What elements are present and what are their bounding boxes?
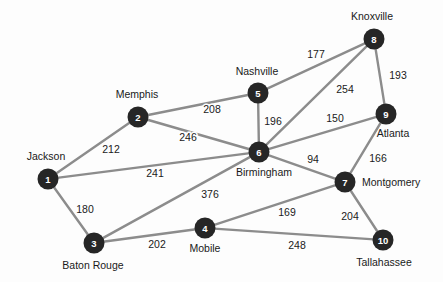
city-label-birmingham: Birmingham	[236, 166, 292, 178]
city-label-nashville: Nashville	[236, 65, 279, 77]
edge-weight-label: 94	[307, 153, 319, 165]
edge-weight-label: 208	[203, 103, 221, 115]
graph-edge	[147, 95, 249, 115]
graph-edge	[375, 48, 384, 105]
city-label-knoxville: Knoxville	[351, 10, 393, 22]
edge-weight-label: 150	[326, 112, 344, 124]
city-label-tallahassee: Tallahassee	[356, 256, 412, 268]
graph-node-9[interactable]: 9	[376, 104, 397, 125]
edge-weight-label: 254	[336, 83, 354, 95]
city-label-atlanta: Atlanta	[377, 127, 410, 139]
graph-node-3[interactable]: 3	[84, 233, 105, 254]
edge-weight-label: 177	[307, 48, 325, 60]
city-label-jackson: Jackson	[27, 150, 66, 162]
node-number-label: 9	[383, 109, 388, 120]
graph-edge	[258, 102, 259, 143]
city-label-memphis: Memphis	[116, 88, 159, 100]
graph-node-6[interactable]: 6	[249, 142, 270, 163]
city-label-baton-rouge: Baton Rouge	[62, 259, 123, 271]
graph-edge	[147, 120, 251, 150]
graph-node-2[interactable]: 2	[128, 107, 149, 128]
node-number-label: 4	[202, 223, 208, 234]
graph-node-1[interactable]: 1	[38, 169, 59, 190]
graph-node-5[interactable]: 5	[248, 83, 269, 104]
edge-weight-label: 169	[278, 206, 296, 218]
graph-edge	[268, 117, 378, 150]
edge-weight-label: 193	[389, 69, 407, 81]
edge-weight-label: 246	[179, 131, 197, 143]
graph-node-4[interactable]: 4	[195, 218, 216, 239]
node-number-label: 10	[378, 235, 389, 246]
edge-weight-label: 376	[201, 188, 219, 200]
node-number-label: 1	[45, 174, 51, 185]
edge-weight-label: 180	[76, 203, 94, 215]
edge-weight-label: 202	[148, 238, 166, 250]
node-number-label: 8	[371, 34, 376, 45]
graph-node-7[interactable]: 7	[335, 172, 356, 193]
edge-weight-label: 196	[264, 115, 282, 127]
city-label-montgomery: Montgomery	[362, 176, 421, 188]
edge-weight-label: 204	[341, 210, 359, 222]
node-number-label: 2	[135, 112, 140, 123]
graph-figure: 12345678910 2122122412411801802082082462…	[0, 0, 443, 282]
node-number-label: 6	[256, 147, 261, 158]
graph-edge	[214, 229, 374, 240]
graph-canvas: 12345678910 2122122412411801802082082462…	[0, 0, 443, 282]
node-number-label: 5	[255, 88, 261, 99]
edge-weight-label: 248	[288, 239, 306, 251]
edge-weight-label: 166	[369, 152, 387, 164]
edge-weight-layer: 2122122412411801802082082462461961961771…	[76, 48, 407, 251]
graph-node-10[interactable]: 10	[373, 230, 394, 251]
edge-weight-label: 212	[102, 143, 120, 155]
graph-edge	[214, 185, 337, 225]
node-number-label: 3	[91, 238, 96, 249]
city-label-mobile: Mobile	[190, 242, 221, 254]
graph-edge	[265, 45, 367, 145]
edge-weight-label: 241	[146, 167, 164, 179]
node-number-label: 7	[342, 177, 347, 188]
graph-node-8[interactable]: 8	[364, 29, 385, 50]
